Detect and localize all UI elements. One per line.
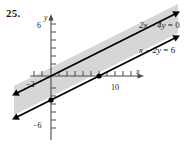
tick-label-y-6: 6 <box>37 21 41 30</box>
tick-label-y-negative-6: −6 <box>33 121 42 130</box>
equation-label-lower: x − 2y = 6 <box>139 45 175 55</box>
equation-upper-rhs: 0 <box>175 20 180 30</box>
figure-container: 25. <box>0 0 187 144</box>
tick-label-x-negative-2: −2 <box>26 80 35 89</box>
equation-label-upper: 2x − 4y = 0 <box>139 20 180 30</box>
equation-upper-operator: − <box>150 20 155 30</box>
point-marker-y-intercept <box>48 97 53 102</box>
equation-lower-operator: − <box>145 45 150 55</box>
equation-upper-coef-y: 4y <box>157 20 166 30</box>
equation-lower-coef-x: x <box>139 45 143 55</box>
equation-lower-coef-y: 2y <box>153 45 162 55</box>
equation-lower-rhs: 6 <box>171 45 176 55</box>
equation-lower-equals: = <box>163 45 168 55</box>
y-axis-name: y <box>44 13 48 22</box>
equation-upper-coef-x: 2x <box>139 20 148 30</box>
point-marker-x-intercept <box>96 73 101 78</box>
tick-label-x-10: 10 <box>111 83 119 92</box>
x-axis-name: x <box>136 67 140 76</box>
equation-upper-equals: = <box>168 20 173 30</box>
